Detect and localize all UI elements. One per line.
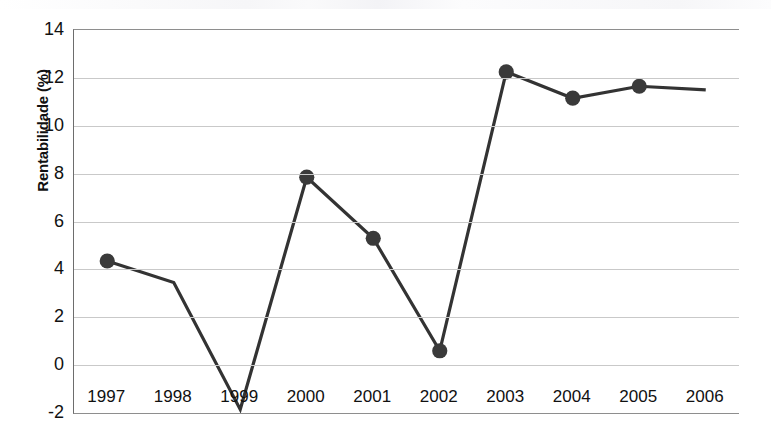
- gridline: [74, 78, 739, 79]
- gridline: [74, 174, 739, 175]
- data-point-marker: [299, 170, 314, 185]
- x-axis-tick-labels: 1997199819992000200120022003200420052006: [73, 388, 738, 418]
- x-tick-label: 1998: [138, 388, 208, 405]
- y-tick-label: 2: [12, 307, 64, 325]
- x-tick-label: 2000: [271, 388, 341, 405]
- y-tick-label: 10: [12, 116, 64, 134]
- x-tick-label: 2002: [404, 388, 474, 405]
- gridline: [74, 126, 739, 127]
- data-point-marker: [100, 253, 115, 268]
- x-tick-label: 2005: [603, 388, 673, 405]
- data-point-marker: [632, 79, 647, 94]
- y-tick-label: 6: [12, 212, 64, 230]
- y-tick-label: 0: [12, 355, 64, 373]
- x-tick-label: 1997: [71, 388, 141, 405]
- plot-area: [73, 29, 739, 414]
- data-point-marker: [565, 91, 580, 106]
- data-point-marker: [366, 231, 381, 246]
- y-tick-label: 8: [12, 164, 64, 182]
- gridline: [74, 269, 739, 270]
- y-axis-tick-labels: 14121086420-2: [0, 0, 64, 433]
- x-tick-label: 1999: [204, 388, 274, 405]
- series-polyline: [107, 72, 706, 410]
- y-tick-label: 14: [12, 20, 64, 38]
- gridline: [74, 222, 739, 223]
- data-point-marker: [432, 343, 447, 358]
- y-tick-label: -2: [12, 403, 64, 421]
- x-tick-label: 2006: [670, 388, 740, 405]
- line-chart: Rentabilidade (%) 14121086420-2 19971998…: [0, 0, 771, 433]
- scan-artifact: [0, 0, 771, 9]
- gridline: [74, 317, 739, 318]
- x-tick-label: 2003: [470, 388, 540, 405]
- y-tick-label: 12: [12, 68, 64, 86]
- y-tick-label: 4: [12, 259, 64, 277]
- x-tick-label: 2001: [337, 388, 407, 405]
- x-tick-label: 2004: [537, 388, 607, 405]
- gridline: [74, 365, 739, 366]
